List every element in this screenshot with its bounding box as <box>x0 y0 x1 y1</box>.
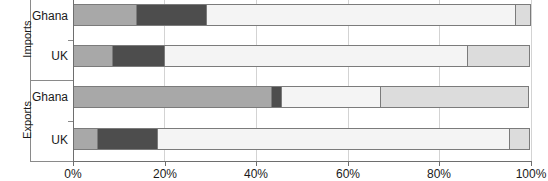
x-tick-label-20: 20% <box>142 167 188 181</box>
bar-segment-imports-ghana-1[interactable] <box>73 4 137 26</box>
bar-segment-exports-uk-1[interactable] <box>73 128 98 150</box>
x-tick-80 <box>439 161 440 166</box>
category-label-imports-ghana: Ghana <box>0 9 68 23</box>
bar-segment-exports-uk-4[interactable] <box>509 128 530 150</box>
plot-area <box>73 0 531 161</box>
x-tick-40 <box>256 161 257 166</box>
bar-segment-exports-ghana-4[interactable] <box>380 86 529 108</box>
bar-segment-imports-uk-1[interactable] <box>73 45 113 67</box>
bar-imports-uk[interactable] <box>73 45 530 67</box>
category-label-imports-uk: UK <box>0 49 68 63</box>
gridline-100 <box>531 0 532 161</box>
x-tick-0 <box>73 161 74 166</box>
x-tick-60 <box>348 161 349 166</box>
bar-segment-imports-uk-2[interactable] <box>112 45 165 67</box>
group-axis-separator-mid <box>30 80 73 81</box>
stacked-bar-chart: Imports Exports Ghana UK Ghana UK <box>0 0 548 181</box>
bar-segment-exports-uk-3[interactable] <box>157 128 510 150</box>
x-tick-label-40: 40% <box>233 167 279 181</box>
x-tick-100 <box>531 161 532 166</box>
bar-exports-ghana[interactable] <box>73 86 529 108</box>
x-tick-label-0: 0% <box>53 167 93 181</box>
x-tick-label-60: 60% <box>325 167 371 181</box>
x-axis-spine <box>73 161 532 162</box>
bar-segment-imports-uk-4[interactable] <box>467 45 530 67</box>
x-tick-20 <box>165 161 166 166</box>
bar-segment-exports-ghana-3[interactable] <box>281 86 381 108</box>
group-axis-separator-bottom <box>30 161 73 162</box>
y-axis-spine <box>73 0 74 161</box>
bar-segment-imports-ghana-4[interactable] <box>515 4 531 26</box>
x-tick-label-80: 80% <box>416 167 462 181</box>
bar-segment-imports-ghana-2[interactable] <box>136 4 207 26</box>
bar-exports-uk[interactable] <box>73 128 530 150</box>
bar-segment-exports-ghana-1[interactable] <box>73 86 272 108</box>
bar-segment-imports-ghana-3[interactable] <box>206 4 516 26</box>
category-label-exports-uk: UK <box>0 133 68 147</box>
bar-imports-ghana[interactable] <box>73 4 531 26</box>
bar-segment-imports-uk-3[interactable] <box>164 45 468 67</box>
bar-segment-exports-uk-2[interactable] <box>97 128 158 150</box>
category-label-exports-ghana: Ghana <box>0 90 68 104</box>
x-tick-label-100: 100% <box>504 167 548 181</box>
